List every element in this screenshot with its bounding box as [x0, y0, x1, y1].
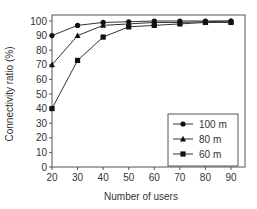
y-tick-label: 0	[41, 162, 47, 173]
square-marker	[49, 106, 54, 111]
line-chart: 0102030405060708090100 2030405060708090 …	[0, 0, 257, 209]
y-tick-label: 30	[36, 118, 48, 129]
x-axis-ticks: 2030405060708090	[46, 167, 237, 183]
circle-marker	[75, 23, 80, 28]
y-tick-label: 60	[36, 74, 48, 85]
y-tick-label: 90	[36, 30, 48, 41]
y-axis-ticks: 0102030405060708090100	[30, 16, 52, 173]
square-marker	[75, 58, 80, 63]
x-tick-label: 70	[174, 172, 186, 183]
y-axis-label: Connectivity ratio (%)	[4, 46, 15, 141]
x-tick-label: 50	[123, 172, 135, 183]
square-marker	[152, 23, 157, 28]
y-tick-label: 10	[36, 147, 48, 158]
legend: 100 m80 m60 m	[168, 114, 238, 166]
x-tick-label: 40	[98, 172, 110, 183]
y-tick-label: 100	[30, 16, 47, 27]
legend-label: 100 m	[199, 119, 227, 130]
data-series	[49, 18, 234, 111]
square-marker	[180, 151, 185, 156]
x-tick-label: 80	[200, 172, 212, 183]
square-marker	[101, 34, 106, 39]
y-tick-label: 70	[36, 59, 48, 70]
y-tick-label: 20	[36, 132, 48, 143]
y-tick-label: 40	[36, 103, 48, 114]
circle-marker	[49, 33, 54, 38]
y-tick-label: 50	[36, 89, 48, 100]
square-marker	[203, 20, 208, 25]
y-tick-label: 80	[36, 45, 48, 56]
x-axis-label: Number of users	[104, 191, 178, 202]
circle-marker	[180, 121, 185, 126]
square-marker	[228, 20, 233, 25]
legend-label: 60 m	[199, 149, 221, 160]
x-tick-label: 60	[149, 172, 161, 183]
square-marker	[177, 21, 182, 26]
square-marker	[126, 24, 131, 29]
x-tick-label: 30	[72, 172, 84, 183]
legend-label: 80 m	[199, 134, 221, 145]
x-tick-label: 20	[46, 172, 58, 183]
x-tick-label: 90	[225, 172, 237, 183]
